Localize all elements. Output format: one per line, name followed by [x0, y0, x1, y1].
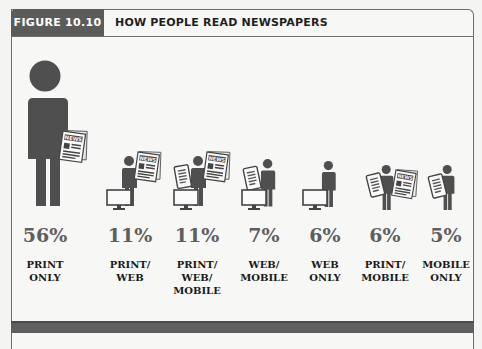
percentage: 7%: [229, 222, 299, 248]
person-mobile-only-icon: [428, 165, 454, 210]
category-label: PRINT/ WEB: [95, 258, 165, 284]
category-label: PRINT/ WEB/ MOBILE: [162, 258, 232, 297]
person-web-only-icon: [303, 161, 336, 210]
pictograph-icons: NEWS: [0, 0, 482, 215]
stat-web-mobile: 7% WEB/ MOBILE: [229, 222, 299, 284]
person-print-only-icon: [17, 61, 90, 207]
stat-print-web: 11% PRINT/ WEB: [95, 222, 165, 284]
percentage: 6%: [350, 222, 420, 248]
person-print-web-icon: [107, 149, 164, 210]
percentage: 5%: [411, 222, 481, 248]
percentage: 11%: [95, 222, 165, 248]
percentage: 56%: [10, 222, 80, 248]
stat-print-mobile: 6% PRINT/ MOBILE: [350, 222, 420, 284]
category-label: PRINT ONLY: [10, 258, 80, 284]
stat-print-web-mobile: 11% PRINT/ WEB/ MOBILE: [162, 222, 232, 297]
person-print-web-mobile-icon: [174, 149, 233, 210]
category-label: WEB/ MOBILE: [229, 258, 299, 284]
category-label: PRINT/ MOBILE: [350, 258, 420, 284]
percentage: 11%: [162, 222, 232, 248]
footer-bar: [11, 321, 474, 333]
category-label: MOBILE ONLY: [411, 258, 481, 284]
person-print-mobile-icon: [366, 165, 420, 210]
stat-mobile-only: 5% MOBILE ONLY: [411, 222, 481, 284]
person-web-mobile-icon: [242, 159, 275, 210]
stat-print-only: 56% PRINT ONLY: [10, 222, 80, 284]
